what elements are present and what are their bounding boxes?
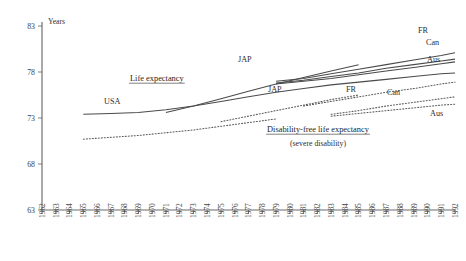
x-axis-tick-label: 1967 (107, 203, 116, 218)
x-axis-tick-label: 1980 (286, 203, 295, 218)
series-label-life-usa: USA (104, 97, 120, 106)
x-axis-tick-label: 1971 (162, 203, 171, 218)
y-axis-tick-label: 63 (27, 206, 35, 215)
x-axis-tick-label: 1975 (217, 203, 226, 218)
y-axis-title-text: Years (48, 17, 65, 26)
series-label-disability-can: Can (387, 88, 400, 97)
series-line-dotted-jap (221, 95, 359, 122)
x-axis-tick-label: 1979 (272, 203, 281, 218)
y-axis-tick-label: 68 (27, 160, 35, 169)
annotation-severe-disability: (severe disability) (290, 139, 346, 148)
series-label-disability-aus: Aus (430, 109, 443, 118)
y-axis-tick-label: 73 (27, 114, 35, 123)
x-axis-tick-label: 1983 (327, 203, 336, 218)
series-line-solid-jap (166, 65, 359, 113)
x-axis-tick-label: 1981 (299, 203, 308, 218)
x-axis-tick-label: 1991 (437, 203, 446, 218)
x-axis-tick-label: 1970 (148, 203, 157, 218)
x-axis-tick-label: 1978 (258, 203, 267, 218)
x-axis-tick-label: 1986 (368, 203, 377, 218)
x-axis-tick-label: 1985 (354, 203, 363, 218)
x-axis-tick-label: 1969 (134, 203, 143, 218)
series-label-life-fr: FR (418, 26, 429, 35)
x-axis-tick-label: 1963 (52, 203, 61, 218)
x-axis-tick-label: 1968 (120, 203, 129, 218)
x-axis-tick-label: 1974 (203, 203, 212, 218)
x-axis-tick-label: 1988 (396, 203, 405, 218)
labels-layer: USAJAPJAPFRCanAusFRCanAusLife expectancy… (104, 26, 443, 148)
x-axis-tick-label: 1962 (38, 203, 47, 218)
series-label-life-jap: JAP (238, 55, 252, 64)
x-axis-tick-label: 1966 (93, 203, 102, 218)
series-label-disability-jap: JAP (268, 85, 282, 94)
series-line-dotted-usa (83, 119, 276, 139)
x-axis-tick-label: 1984 (341, 203, 350, 218)
annotation-life-expectancy: Life expectancy (130, 74, 185, 83)
x-axis-tick-label: 1964 (65, 203, 74, 218)
x-axis-tick-label: 1973 (189, 203, 198, 218)
y-axis-tick-label: 83 (27, 22, 35, 31)
x-axis-tick-label: 1982 (313, 203, 322, 218)
chart-container: 8378736863Years1962196319641965196619671… (0, 0, 466, 261)
line-chart-plot: 8378736863Years1962196319641965196619671… (0, 0, 466, 261)
y-axis-tick-label: 78 (27, 68, 35, 77)
x-axis-tick-label: 1989 (410, 203, 419, 218)
series-label-life-can: Can (426, 38, 439, 47)
x-axis-tick-label: 1990 (423, 203, 432, 218)
annotation-disability-free: Disability-free life expectancy (267, 125, 370, 134)
axes-layer: 8378736863Years1962196319641965196619671… (27, 17, 460, 218)
x-axis-tick-label: 1977 (244, 203, 253, 218)
x-axis-tick-label: 1972 (175, 203, 184, 218)
x-axis-tick-label: 1987 (382, 203, 391, 218)
x-axis-tick-label: 1976 (231, 203, 240, 218)
series-label-disability-fr: FR (346, 85, 357, 94)
x-axis-tick-label: 1992 (451, 203, 460, 218)
x-axis-tick-label: 1965 (79, 203, 88, 218)
series-label-life-aus: Aus (427, 55, 440, 64)
